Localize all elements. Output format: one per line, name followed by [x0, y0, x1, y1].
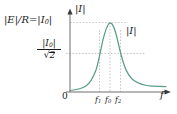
half-power-numerator: |I0| — [33, 39, 65, 49]
curve-label: |I| — [126, 26, 137, 36]
half-power-value-label: |I0| √2 — [33, 39, 65, 60]
peak-value-suffix: | — [49, 14, 52, 25]
x-axis-arrow-icon — [165, 90, 172, 95]
x-tick-label-f0: f0 — [105, 95, 111, 104]
x-tick-label-f2: f2 — [115, 95, 121, 104]
x-axis-label: f — [160, 90, 164, 100]
resonance-curve-figure: |E|/R=|I0| |I0| √2 |I| |I| 0 f1 f0 f2 f — [0, 0, 177, 114]
half-power-numerator-prefix: |I — [42, 38, 49, 48]
peak-value-prefix: |E|/R=|I — [4, 14, 45, 25]
half-power-numerator-suffix: | — [53, 38, 56, 48]
radical-vinculum — [49, 52, 55, 53]
y-axis-label: |I| — [75, 4, 86, 14]
origin-label: 0 — [62, 92, 68, 101]
y-axis-arrow-icon — [67, 9, 72, 15]
resonance-curve-path — [70, 23, 166, 90]
half-power-denominator: √2 — [33, 50, 65, 60]
radical-icon: √2 — [43, 51, 55, 60]
x-tick-label-f1: f1 — [95, 95, 101, 104]
peak-value-label: |E|/R=|I0| — [4, 15, 52, 26]
